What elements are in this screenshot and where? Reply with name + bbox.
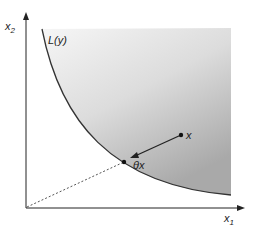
point-theta-x-label: θx (133, 159, 145, 171)
input-requirement-diagram: x2 x1 L(y) x θx (0, 0, 253, 233)
point-x-label: x (185, 129, 192, 141)
x-axis-label: x1 (223, 212, 234, 227)
point-theta-x (122, 160, 126, 164)
y-axis-label: x2 (4, 20, 16, 35)
ray-dashed-line (27, 162, 124, 207)
x-axis-arrow-icon (237, 205, 245, 211)
y-axis-arrow-icon (23, 12, 29, 20)
point-x (179, 133, 183, 137)
curve-label: L(y) (48, 34, 67, 46)
